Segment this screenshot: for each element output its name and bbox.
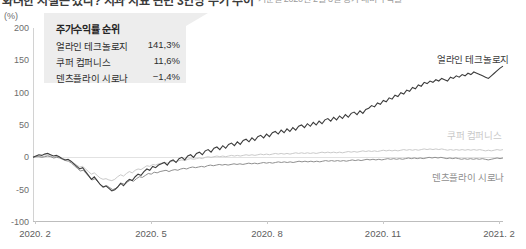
x-axis-tick: 2020. 2 bbox=[19, 228, 51, 239]
legend-heading: 주가수익률 순위 bbox=[56, 21, 119, 36]
x-axis-tick: 2020. 8 bbox=[251, 228, 283, 239]
legend-row-dentsply: 덴츠플라이 시로나 −1,4% bbox=[44, 71, 186, 86]
legend-row-align: 얼라인 테크놀로지 141,3% bbox=[44, 39, 186, 54]
y-axis-tick: 50 bbox=[19, 121, 29, 130]
y-axis-tick: -50 bbox=[16, 186, 29, 195]
legend-name-dentsply: 덴츠플라이 시로나 bbox=[56, 71, 128, 85]
x-axis-tickmark bbox=[35, 221, 36, 224]
legend-value-align: 141,3% bbox=[148, 39, 180, 50]
x-axis-tickmark bbox=[499, 221, 500, 224]
y-axis-tick: 150 bbox=[14, 56, 29, 65]
y-axis-tick: 200 bbox=[14, 24, 29, 33]
legend-name-cooper: 쿠퍼 컴퍼니스 bbox=[56, 55, 111, 69]
x-axis-tickmark bbox=[151, 221, 152, 224]
page-subtitle: 기준일 2020년 2월 3일 종가 대비 수익률 bbox=[258, 0, 402, 5]
page-title: 화려한 시절은 갔다? 치과 치료 관련 3인방 주가 추이 bbox=[2, 0, 254, 7]
annotation-align: 얼라인 테크놀로지 bbox=[437, 52, 509, 66]
annotation-dentsply: 덴츠플라이 시로나 bbox=[432, 170, 504, 184]
x-axis-tick: 2020. 5 bbox=[135, 228, 167, 239]
legend-value-dentsply: −1,4% bbox=[153, 71, 180, 82]
chart-root: 화려한 시절은 갔다? 치과 치료 관련 3인방 주가 추이 기준일 2020년… bbox=[0, 0, 526, 249]
legend-name-align: 얼라인 테크놀로지 bbox=[56, 39, 128, 53]
x-axis-tick: 2021. 2 bbox=[483, 228, 515, 239]
legend-row-cooper: 쿠퍼 컴퍼니스 11,6% bbox=[44, 55, 186, 70]
legend-callout-tail bbox=[186, 13, 208, 26]
y-axis-tick: -100 bbox=[11, 218, 29, 227]
y-axis-unit: (%) bbox=[4, 11, 18, 21]
annotation-cooper: 쿠퍼 컴퍼니스 bbox=[447, 128, 502, 142]
x-axis-tickmark bbox=[383, 221, 384, 224]
legend-callout-box: 주가수익률 순위 얼라인 테크놀로지 141,3% 쿠퍼 컴퍼니스 11,6% … bbox=[44, 13, 186, 83]
chart-title-strip: 화려한 시절은 갔다? 치과 치료 관련 3인방 주가 추이 기준일 2020년… bbox=[0, 0, 526, 7]
x-axis-tickmark bbox=[267, 221, 268, 224]
y-axis-tick: 100 bbox=[14, 89, 29, 98]
y-axis-labels: (%) 200150100500-50-100 bbox=[0, 0, 29, 249]
x-axis-tick: 2020. 11 bbox=[365, 228, 401, 239]
legend-value-cooper: 11,6% bbox=[154, 55, 180, 66]
y-axis-tick: 0 bbox=[24, 153, 29, 162]
